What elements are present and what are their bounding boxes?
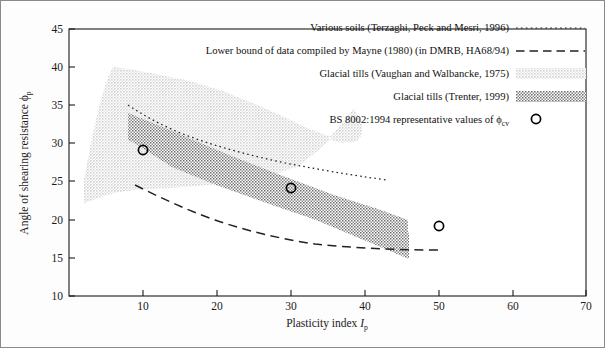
x-tick-label: 60 <box>507 300 519 312</box>
y-tick-label: 25 <box>52 175 64 187</box>
x-tick-label: 30 <box>285 300 297 312</box>
legend-label-vaughan-walbancke: Glacial tills (Vaughan and Walbancke, 19… <box>319 68 509 80</box>
x-tick-label: 10 <box>137 300 149 312</box>
legend-label-trenter: Glacial tills (Trenter, 1999) <box>393 91 509 103</box>
x-tick-label: 20 <box>211 300 223 312</box>
x-tick-labels: 10 20 30 40 50 60 70 <box>137 300 592 312</box>
y-axis-subscript: p <box>24 91 33 95</box>
legend-label-mayne: Lower bound of data compiled by Mayne (1… <box>206 45 510 57</box>
y-tick-label: 45 <box>52 23 64 35</box>
legend-swatch-dark-crosshatch-icon <box>516 91 586 102</box>
legend-swatch-light-hatch-icon <box>516 68 586 79</box>
y-tick-labels: 45 40 35 30 25 20 15 10 <box>52 23 64 302</box>
y-tick-label: 30 <box>52 137 64 149</box>
y-tick-label: 40 <box>52 61 64 73</box>
chart-svg: 45 40 35 30 25 20 15 10 10 20 30 40 50 6… <box>9 7 598 333</box>
x-tick-label: 50 <box>433 300 445 312</box>
x-axis-title: Plasticity index Ip <box>286 317 368 332</box>
y-tick-label: 15 <box>52 252 64 264</box>
x-axis-title-text: Plasticity index <box>286 317 357 330</box>
y-axis-title-text: Angle of shearing resistance <box>18 104 31 235</box>
y-axis-title: Angle of shearing resistance ϕp <box>18 91 33 235</box>
y-tick-label: 35 <box>52 99 64 111</box>
y-tick-label: 20 <box>52 214 64 226</box>
legend-bs8002-subscript: cv <box>502 119 509 128</box>
x-tick-label: 70 <box>580 300 592 312</box>
legend-bs8002-prefix: BS 8002:1994 representative values of <box>329 114 496 125</box>
x-axis-subscript: p <box>364 323 368 332</box>
chart-figure: 45 40 35 30 25 20 15 10 10 20 30 40 50 6… <box>9 7 598 333</box>
legend-label-terzaghi: Various soils (Terzaghi, Peck and Mesri,… <box>310 22 509 34</box>
figure-frame: 45 40 35 30 25 20 15 10 10 20 30 40 50 6… <box>0 0 605 348</box>
y-tick-label: 10 <box>52 290 64 302</box>
x-tick-label: 40 <box>359 300 371 312</box>
